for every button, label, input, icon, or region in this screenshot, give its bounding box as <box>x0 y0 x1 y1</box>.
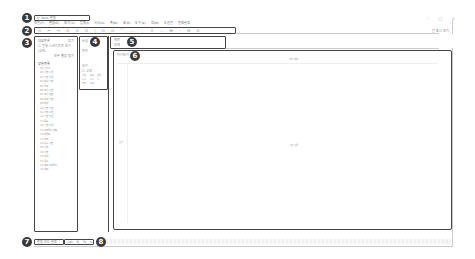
preview-label: 미리보기 <box>117 53 129 57</box>
horizontal-scrollbar[interactable] <box>98 239 451 244</box>
ellipsis-icon[interactable]: … <box>160 28 164 33</box>
window-edge <box>452 20 453 34</box>
paste-icon[interactable]: ⊡ <box>85 28 88 33</box>
scene-list-panel: 대화목록 찾기 ☐ 전체 스크리트로 보기 (상태) 모두 펼침 접기 장면목록… <box>34 36 78 232</box>
forward-icon[interactable]: → <box>57 28 60 33</box>
resize-grip-icon[interactable]: ⋰ <box>447 244 450 248</box>
menu-insert[interactable]: 입력(I) <box>80 21 89 26</box>
back-icon[interactable]: ← <box>47 28 50 33</box>
menu-settings[interactable]: 환경설정 <box>178 21 190 26</box>
fit-icon[interactable]: ⊡ <box>90 240 93 244</box>
grid-cell: 높이 <box>82 82 90 86</box>
vertical-ruler <box>127 63 128 223</box>
window-bottom-edge <box>34 246 453 247</box>
expand-collapse-actions[interactable]: 모두 펼침 접기 <box>38 54 74 59</box>
callout-6: 6 <box>130 51 140 61</box>
zoom-level[interactable]: 100 <box>67 240 73 244</box>
title-panel-divider <box>226 48 439 49</box>
callout-3: 3 <box>22 38 32 48</box>
record-icon[interactable]: ⊙ <box>38 28 41 33</box>
more-icon[interactable]: … <box>130 28 134 33</box>
copy-icon[interactable]: ⊡ <box>75 28 78 33</box>
window-controls: – □ × <box>427 16 459 21</box>
full-script-checkbox[interactable]: ☐ 전체 스크리트로 보기 (상태) <box>38 44 74 54</box>
menu-file[interactable]: 파일(F) <box>34 21 44 26</box>
position-label: 위치 <box>82 49 105 54</box>
maximize-button[interactable]: □ <box>439 16 447 21</box>
minus-icon[interactable]: – <box>179 28 181 33</box>
callout-8: 8 <box>96 237 106 247</box>
panel-divider[interactable] <box>108 36 109 232</box>
callout-1: 1 <box>22 13 32 23</box>
lock-checkbox-label: 고정 <box>86 69 92 73</box>
property-grid: 가로 세로 위치 0.0 0.0 0 높이 너비 <box>82 74 105 86</box>
callout-2: 2 <box>22 26 32 36</box>
callout-5: 5 <box>127 37 137 47</box>
toolbar: ⊙ ← → ⊡ ⊡ ⊡ | ⊡ ⊡ ⌒ … ⋮ ↕ … ⊞ – ⊟ ⊘ <box>34 27 236 34</box>
separator: | <box>94 28 95 33</box>
workspace-label: 작업 영역 <box>289 57 298 61</box>
full-script-checkbox-label: 전체 스크리트로 보기 (상태) <box>38 44 71 53</box>
menu-edit[interactable]: 편집(E) <box>49 21 59 26</box>
scene-list-item[interactable]: 24 예비 <box>38 168 74 172</box>
zoom-in-icon[interactable]: 🔍 <box>76 240 80 244</box>
toolbar-divider <box>236 33 439 34</box>
menu-tools[interactable]: 도구(K) <box>135 21 145 26</box>
disable-icon[interactable]: ⊘ <box>196 28 199 33</box>
preview-canvas[interactable]: 미리보기 작업 영역 눈금 장면 내용 <box>113 50 452 230</box>
frame-icon[interactable]: ⊡ <box>66 28 69 33</box>
zoom-out-icon[interactable]: 🔍 <box>83 240 87 244</box>
menu-table[interactable]: 표(B) <box>123 21 130 26</box>
view-toggle-link[interactable]: 간 표시 보기 <box>432 29 449 33</box>
ruler-label: 눈금 <box>119 141 123 144</box>
horizontal-ruler <box>118 63 438 64</box>
grid-icon[interactable]: ⊞ <box>170 28 173 33</box>
callout-4: 4 <box>90 37 100 47</box>
scene-content: 장면 내용 <box>289 143 298 147</box>
status-text: 편집 모드 완료 <box>34 239 64 245</box>
window-right-edge <box>452 48 453 246</box>
menubar: 파일(F) 편집(E) 보기(V) 입력(I) 서식(O) 쪽(W) 표(B) … <box>34 21 190 26</box>
table-icon[interactable]: ⊟ <box>187 28 190 33</box>
scene-items: 01 인트로02 장면 1번03 장면 2번04 회상 장면05 효과06 추가… <box>38 67 74 173</box>
grid-cell <box>97 82 105 86</box>
options-icon[interactable]: ⋮ <box>140 28 144 33</box>
callout-7: 7 <box>22 237 32 247</box>
menu-window[interactable]: 창(W) <box>151 21 159 26</box>
curve-icon[interactable]: ⌒ <box>120 28 124 34</box>
height-icon[interactable]: ↕ <box>150 28 153 33</box>
zoom-controls: 100 🔍 🔍 ⊡ <box>64 239 94 245</box>
menu-view[interactable]: 보기(V) <box>64 21 74 26</box>
menu-page[interactable]: 쪽(W) <box>110 21 118 26</box>
menu-format[interactable]: 서식(O) <box>94 21 105 26</box>
image-icon[interactable]: ⊡ <box>111 28 114 33</box>
menu-help[interactable]: 도움말 <box>164 21 173 26</box>
grid-cell: 너비 <box>90 82 98 86</box>
minimize-button[interactable]: – <box>427 16 433 21</box>
insert-icon[interactable]: ⊡ <box>102 28 105 33</box>
